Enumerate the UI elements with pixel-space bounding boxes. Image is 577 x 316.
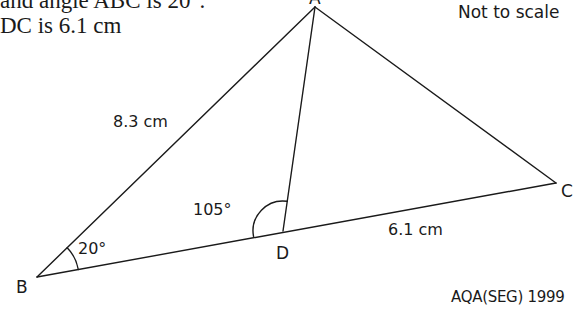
vertex-label-a: A [309,0,321,7]
angle-label-adb: 105° [193,202,232,218]
source-citation: AQA(SEG) 1999 [451,290,564,305]
length-label-dc: 6.1 cm [388,222,443,238]
length-label-ab: 8.3 cm [113,114,168,130]
side-ab [37,7,315,277]
vertex-label-d: D [276,245,289,262]
angle-arc-d [253,201,287,236]
angle-label-abc: 20° [78,241,106,257]
triangle-diagram [0,0,577,316]
vertex-label-c: C [561,183,573,200]
vertex-label-b: B [16,279,28,296]
side-bc [37,183,556,277]
side-ac [315,7,556,183]
segment-ad [283,7,315,231]
angle-arc-b [67,248,78,270]
geometry-question: and angle ABC is 20°. DC is 6.1 cm Not t… [0,0,577,316]
not-to-scale-note: Not to scale [458,4,559,21]
